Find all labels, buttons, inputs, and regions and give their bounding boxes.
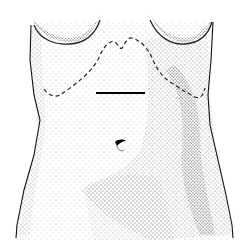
- torso-illustration: [0, 0, 247, 250]
- torso-drawing: [0, 0, 247, 250]
